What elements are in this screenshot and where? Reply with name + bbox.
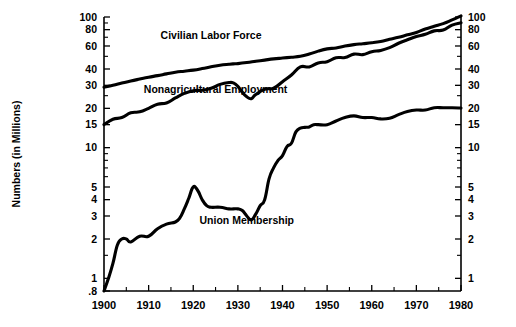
right-tick-label: 2 (468, 233, 474, 245)
left-tick-label: .8 (88, 285, 97, 297)
left-tick-label: 60 (85, 40, 97, 52)
x-axis-ticks: 190019101920193019401950196019701980 (92, 285, 473, 311)
right-tick-label: 60 (468, 40, 480, 52)
series-line-civilian-labor-force (104, 16, 461, 87)
x-tick-label: 1920 (181, 299, 205, 311)
right-tick-label: 3 (468, 210, 474, 222)
right-tick-label: 5 (468, 181, 474, 193)
x-tick-label: 1930 (226, 299, 250, 311)
right-tick-label: 10 (468, 141, 480, 153)
right-tick-label: 80 (468, 23, 480, 35)
x-tick-label: 1950 (315, 299, 339, 311)
left-tick-label: 1 (91, 272, 97, 284)
line-chart-plot: 1008060403020151054321.8 100806040302015… (0, 0, 516, 327)
left-tick-label: 20 (85, 102, 97, 114)
series-label-nonagricultural-employment: Nonagricultural Employment (144, 83, 288, 95)
x-tick-label: 1940 (270, 299, 294, 311)
left-tick-label: 40 (85, 63, 97, 75)
series-line-nonagricultural-employment (104, 23, 461, 125)
right-tick-label: 40 (468, 63, 480, 75)
left-tick-label: 30 (85, 79, 97, 91)
right-tick-label: 15 (468, 118, 480, 130)
series-label-union-membership: Union Membership (200, 214, 295, 226)
x-tick-label: 1970 (404, 299, 428, 311)
x-tick-label: 1900 (92, 299, 116, 311)
left-tick-label: 80 (85, 23, 97, 35)
y-axis-title-text: Numbers (in Millions) (10, 101, 22, 208)
x-tick-label: 1960 (360, 299, 384, 311)
chart-series-lines (104, 16, 461, 291)
right-tick-label: 20 (468, 102, 480, 114)
x-tick-label: 1980 (449, 299, 473, 311)
left-tick-label: 10 (85, 141, 97, 153)
y-axis-title: Numbers (in Millions) (10, 101, 22, 208)
left-tick-label: 5 (91, 181, 97, 193)
x-tick-label: 1910 (136, 299, 160, 311)
right-tick-label: 1 (468, 272, 474, 284)
right-axis-ticks: 1008060403020151054321 (455, 11, 486, 284)
right-tick-label: 4 (468, 193, 474, 205)
series-label-civilian-labor-force: Civilian Labor Force (161, 29, 262, 41)
left-tick-label: 15 (85, 118, 97, 130)
series-line-union-membership (104, 108, 461, 291)
left-tick-label: 3 (91, 210, 97, 222)
left-tick-label: 100 (79, 11, 97, 23)
left-tick-label: 2 (91, 233, 97, 245)
chart-container: 1008060403020151054321.8 100806040302015… (0, 0, 516, 327)
left-tick-label: 4 (91, 193, 97, 205)
right-tick-label: 100 (468, 11, 486, 23)
right-tick-label: 30 (468, 79, 480, 91)
left-axis-ticks: 1008060403020151054321.8 (79, 11, 110, 297)
